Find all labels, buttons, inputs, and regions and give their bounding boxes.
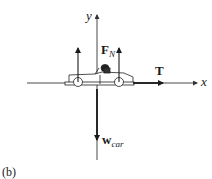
normal-force-label: FN xyxy=(101,43,115,59)
weight-subscript: car xyxy=(111,139,123,149)
weight-label: wcar xyxy=(102,133,123,149)
car-icon xyxy=(65,65,134,87)
normal-force-subscript: N xyxy=(109,49,115,59)
x-axis-label: x xyxy=(201,75,207,88)
tension-label: T xyxy=(155,64,164,77)
free-body-diagram xyxy=(0,0,212,179)
weight-symbol: w xyxy=(102,132,111,147)
panel-label: (b) xyxy=(2,166,16,178)
y-axis-label: y xyxy=(86,9,92,22)
normal-force-symbol: F xyxy=(101,42,109,57)
